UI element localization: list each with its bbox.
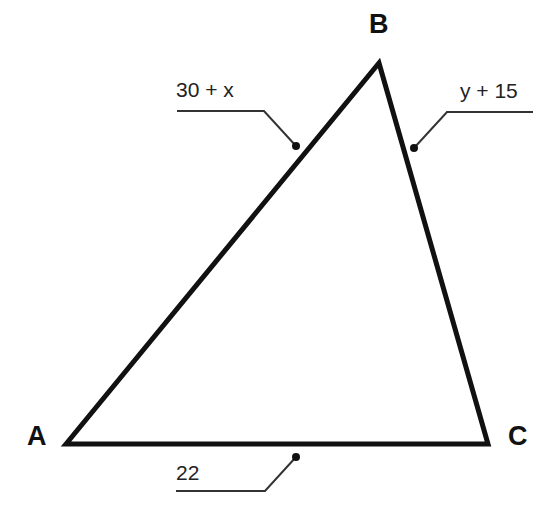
side-label-bc: y + 15 bbox=[460, 79, 518, 102]
side-label-ab: 30 + x bbox=[176, 78, 234, 101]
triangle-abc bbox=[66, 63, 488, 444]
leader-dot-icon bbox=[292, 453, 300, 461]
leader-bc bbox=[410, 112, 533, 152]
vertex-label-a: A bbox=[27, 421, 47, 451]
vertex-label-b: B bbox=[369, 9, 389, 39]
leader-dot-icon bbox=[410, 144, 418, 152]
leader-ab bbox=[177, 111, 300, 150]
vertex-label-c: C bbox=[508, 421, 528, 451]
side-label-ac: 22 bbox=[176, 461, 199, 484]
triangle-diagram: A B C 30 + x y + 15 22 bbox=[0, 0, 546, 519]
leader-dot-icon bbox=[292, 142, 300, 150]
